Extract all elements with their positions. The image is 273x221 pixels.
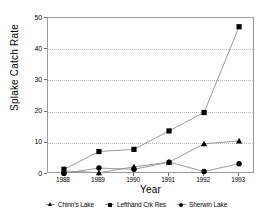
y-axis-tick-label: 30 bbox=[26, 76, 42, 83]
x-axis-tick-label: 1988 bbox=[48, 176, 78, 183]
y-axis-tick-label: 40 bbox=[26, 45, 42, 52]
x-axis-tick-label: 1992 bbox=[188, 176, 218, 183]
circle-marker-icon bbox=[166, 159, 171, 164]
series-sherwin-lake bbox=[61, 159, 242, 176]
series-layer bbox=[48, 18, 255, 174]
x-axis-tick-label: 1993 bbox=[223, 176, 253, 183]
legend-item[interactable]: Lefthand Crk Res bbox=[105, 201, 166, 208]
legend-label: Sherwin Lake bbox=[189, 201, 227, 208]
x-axis-tick-label: 1990 bbox=[118, 176, 148, 183]
chart-legend: Chinn's LakeLefthand Crk ResSherwin Lake bbox=[0, 201, 273, 208]
square-marker-icon bbox=[201, 110, 206, 115]
y-axis-tick-label: 10 bbox=[26, 138, 42, 145]
legend-item[interactable]: Chinn's Lake bbox=[46, 201, 94, 208]
circle-marker-icon bbox=[236, 161, 241, 166]
y-axis-tick-label: 20 bbox=[26, 107, 42, 114]
circle-marker-icon bbox=[61, 171, 66, 176]
plot-area bbox=[47, 17, 254, 173]
x-axis-tick-label: 1991 bbox=[153, 176, 183, 183]
circle-marker-icon bbox=[96, 165, 101, 170]
y-axis-tick-mark bbox=[44, 173, 47, 174]
y-axis-tick-label: 0 bbox=[26, 170, 42, 177]
circle-marker-icon bbox=[201, 169, 206, 174]
triangle-marker-icon bbox=[236, 138, 242, 144]
square-icon bbox=[105, 201, 114, 208]
square-marker-icon bbox=[131, 147, 136, 152]
triangle-icon bbox=[46, 201, 55, 208]
y-axis-tick-label: 50 bbox=[26, 14, 42, 21]
series-line bbox=[64, 27, 239, 170]
circle-marker-icon bbox=[131, 167, 136, 172]
chart-figure: Splake Catch Rate Year 01020304050 19881… bbox=[0, 0, 273, 221]
legend-item[interactable]: Sherwin Lake bbox=[177, 201, 227, 208]
legend-label: Chinn's Lake bbox=[58, 201, 94, 208]
series-line bbox=[64, 141, 239, 173]
square-marker-icon bbox=[236, 24, 241, 29]
legend-label: Lefthand Crk Res bbox=[117, 201, 166, 208]
x-axis-title: Year bbox=[47, 184, 254, 195]
series-line bbox=[64, 162, 239, 173]
square-marker-icon bbox=[166, 128, 171, 133]
y-axis-title: Splake Catch Rate bbox=[9, 8, 20, 128]
x-axis-tick-label: 1989 bbox=[83, 176, 113, 183]
series-lefthand-crk-res bbox=[61, 24, 241, 172]
square-marker-icon bbox=[96, 149, 101, 154]
circle-icon bbox=[177, 201, 186, 208]
